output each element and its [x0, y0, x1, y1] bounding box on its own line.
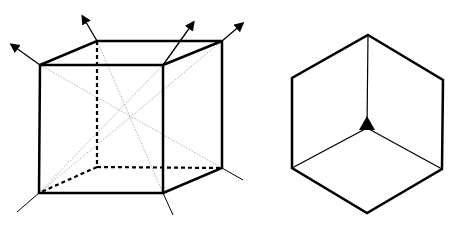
- hidden-edge-back-bottom: [97, 167, 222, 168]
- right-face-edges: [163, 41, 222, 193]
- inner-edge-right: [367, 128, 442, 169]
- figure: [0, 0, 453, 227]
- diagonal-3: [39, 65, 163, 193]
- inner-edges: [292, 35, 442, 169]
- axis-arrow-2: [83, 17, 97, 41]
- inner-edge-left: [292, 128, 367, 168]
- axis-arrow-4: [222, 24, 242, 41]
- inner-edge-top: [367, 35, 368, 128]
- top-face-edges: [40, 41, 222, 65]
- axis-tail-3: [222, 168, 243, 180]
- hidden-edge-side-bottom: [39, 167, 97, 193]
- cube-perspective: [12, 17, 243, 215]
- threefold-axis-symbol-icon: [359, 116, 375, 130]
- axis-arrow-1: [12, 45, 40, 65]
- axis-tails: [17, 168, 243, 215]
- axis-tail-1: [17, 193, 39, 212]
- axis-tail-2: [163, 193, 173, 215]
- cube-along-diagonal-view: [292, 35, 443, 213]
